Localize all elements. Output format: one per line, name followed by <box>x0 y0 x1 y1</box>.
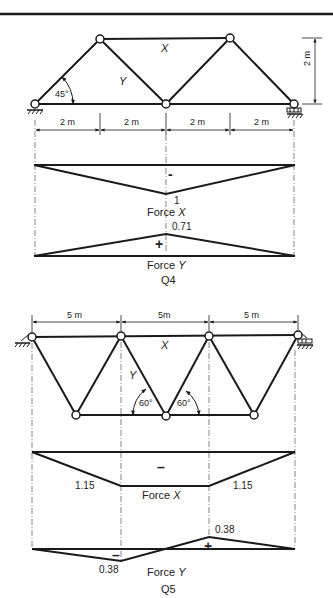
q4-top-chord-member-x <box>100 38 230 39</box>
q4-projection-lines <box>35 120 294 256</box>
q4-roller-support-icon <box>287 108 303 118</box>
q4-span-label-3: 2 m <box>190 118 205 127</box>
q5-member-x-label: X <box>161 340 168 351</box>
truss-diagram-canvas <box>0 0 333 598</box>
q5-span-label-1: 5 m <box>67 311 82 320</box>
q5-force-x-left-value: 1.15 <box>75 481 94 491</box>
q4-force-x-value: 1 <box>174 196 180 206</box>
q5-force-x-right-value: 1.15 <box>233 481 252 491</box>
q5-force-y-title: Force Y <box>147 567 186 578</box>
q4-force-x-diagram <box>34 165 295 194</box>
q5-span-label-3: 5 m <box>244 311 259 320</box>
q4-force-x-sign: - <box>168 167 173 181</box>
q5-force-y-pos-sign: + <box>204 539 212 553</box>
q5-force-y-neg-value: 0.38 <box>99 565 118 575</box>
q5-force-y-neg-sign: – <box>112 548 120 562</box>
q4-caption: Q4 <box>161 275 176 286</box>
q5-angle-left-label: 60° <box>139 399 153 408</box>
q4-member-x-label: X <box>161 43 168 54</box>
q5-force-x-title: Force X <box>142 490 181 501</box>
q5-top-chord-member-x <box>32 335 298 337</box>
q4-force-y-diagram <box>34 234 295 256</box>
q4-member-y-label: Y <box>119 76 126 87</box>
q4-span-label-1: 2 m <box>60 118 75 127</box>
q4-force-y-title: Force Y <box>147 260 186 271</box>
q4-force-x-title: Force X <box>147 207 186 218</box>
q4-span-label-4: 2 m <box>254 118 269 127</box>
q4-pin-support-icon <box>27 110 43 114</box>
q5-force-y-diagram <box>32 537 295 561</box>
q5-angle-right-label: 60° <box>177 399 191 408</box>
q5-span-label-2: 5m <box>158 311 171 320</box>
q5-member-y-label: Y <box>129 370 136 381</box>
q4-force-y-sign: + <box>155 237 163 251</box>
q4-force-y-value: 0.71 <box>172 222 191 232</box>
q5-force-x-sign: – <box>157 460 165 474</box>
q5-caption: Q5 <box>161 584 176 595</box>
q4-span-label-2: 2 m <box>124 118 139 127</box>
q4-height-dimension <box>302 38 322 104</box>
q4-member-y <box>100 39 166 104</box>
q4-angle-label: 45° <box>55 90 69 99</box>
q4-height-label: 2 m <box>303 51 312 66</box>
q5-force-y-pos-value: 0.38 <box>215 525 234 535</box>
